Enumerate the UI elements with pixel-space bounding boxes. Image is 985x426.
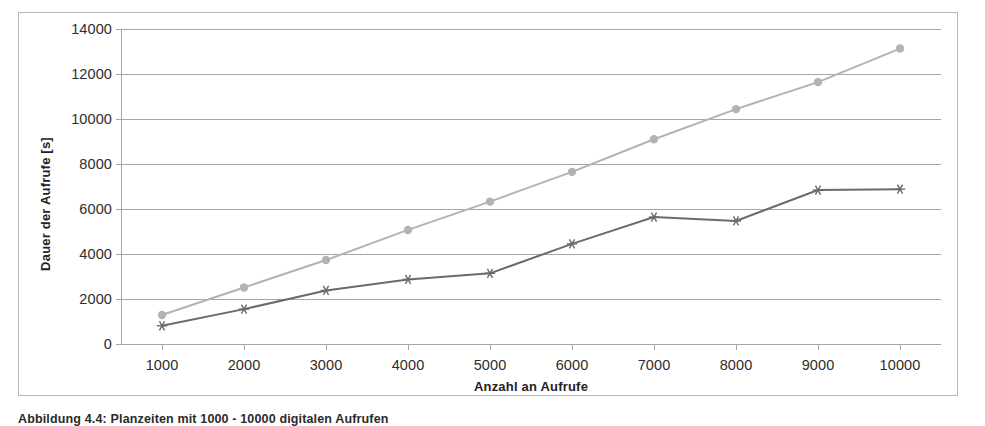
x-tick-label: 5000 bbox=[474, 357, 507, 373]
series-layer bbox=[121, 29, 941, 344]
data-point-marker bbox=[813, 186, 823, 195]
y-tick-label: 10000 bbox=[71, 111, 112, 127]
y-axis-tick bbox=[116, 344, 121, 345]
data-point-marker bbox=[240, 283, 248, 291]
data-point-marker bbox=[321, 286, 331, 295]
x-axis-tick bbox=[490, 344, 491, 350]
data-point-marker bbox=[731, 216, 741, 225]
y-tick-label: 6000 bbox=[79, 201, 112, 217]
data-point-marker bbox=[485, 269, 495, 278]
x-tick-label: 6000 bbox=[556, 357, 589, 373]
y-tick-label: 4000 bbox=[79, 246, 112, 262]
x-axis-tick bbox=[244, 344, 245, 350]
x-tick-label: 8000 bbox=[720, 357, 753, 373]
figure-caption: Abbildung 4.4: Planzeiten mit 1000 - 100… bbox=[18, 412, 958, 426]
x-tick-label: 9000 bbox=[802, 357, 835, 373]
y-tick-label: 0 bbox=[104, 336, 112, 352]
x-axis-tick bbox=[736, 344, 737, 350]
data-point-marker bbox=[404, 226, 412, 234]
data-point-marker bbox=[896, 44, 904, 52]
x-axis-tick bbox=[162, 344, 163, 350]
x-axis-tick bbox=[900, 344, 901, 350]
x-axis-tick bbox=[654, 344, 655, 350]
data-point-marker bbox=[403, 275, 413, 284]
x-tick-label: 2000 bbox=[228, 357, 261, 373]
data-point-marker bbox=[322, 256, 330, 264]
data-point-marker bbox=[158, 311, 166, 319]
x-axis-tick bbox=[408, 344, 409, 350]
y-tick-label: 8000 bbox=[79, 156, 112, 172]
x-tick-label: 4000 bbox=[392, 357, 425, 373]
data-point-marker bbox=[895, 185, 905, 194]
data-point-marker bbox=[649, 213, 659, 222]
x-axis-tick bbox=[818, 344, 819, 350]
x-axis-tick bbox=[326, 344, 327, 350]
data-point-marker bbox=[650, 135, 658, 143]
plot-area: 02000400060008000100001200014000 1000200… bbox=[121, 29, 941, 344]
x-tick-label: 1000 bbox=[146, 357, 179, 373]
x-tick-label: 7000 bbox=[638, 357, 671, 373]
series-asterisk bbox=[157, 185, 905, 331]
data-point-marker bbox=[239, 305, 249, 314]
plot-inner: 02000400060008000100001200014000 1000200… bbox=[121, 29, 941, 344]
x-axis-title: Anzahl an Aufrufe bbox=[121, 379, 941, 394]
data-point-marker bbox=[486, 197, 494, 205]
x-axis-tick bbox=[572, 344, 573, 350]
y-axis-title: Dauer der Aufrufe [s] bbox=[38, 137, 53, 271]
series-circle bbox=[158, 44, 904, 319]
y-tick-label: 2000 bbox=[79, 291, 112, 307]
y-tick-label: 14000 bbox=[71, 21, 112, 37]
data-point-marker bbox=[732, 105, 740, 113]
data-point-marker bbox=[814, 78, 822, 86]
data-point-marker bbox=[567, 239, 577, 248]
data-point-marker bbox=[157, 321, 167, 330]
x-tick-label: 3000 bbox=[310, 357, 343, 373]
y-tick-label: 12000 bbox=[71, 66, 112, 82]
figure-frame: Dauer der Aufrufe [s] 020004000600080001… bbox=[18, 12, 958, 396]
series-line bbox=[162, 189, 900, 326]
series-line bbox=[162, 49, 900, 315]
x-tick-label: 10000 bbox=[880, 357, 921, 373]
data-point-marker bbox=[568, 168, 576, 176]
